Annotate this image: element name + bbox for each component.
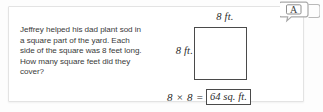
screenshot-root: Jeffrey helped his dad plant sod in a sq… [0,0,323,112]
problem-card: Jeffrey helped his dad plant sod in a sq… [8,6,304,102]
answer-box[interactable]: 64 sq. ft. [206,89,251,105]
equation-row: 8 × 8 = 64 sq. ft. [167,88,251,105]
square-top-side-label: 8 ft. [199,11,251,22]
equation-expression: 8 × 8 = [167,91,204,103]
square-left-side-label: 8 ft. [157,45,193,56]
annotation-badge[interactable]: A [280,1,320,31]
badge-letter: A [286,5,301,14]
square-shape [194,27,247,80]
word-problem-text: Jeffrey helped his dad plant sod in a sq… [20,25,142,78]
